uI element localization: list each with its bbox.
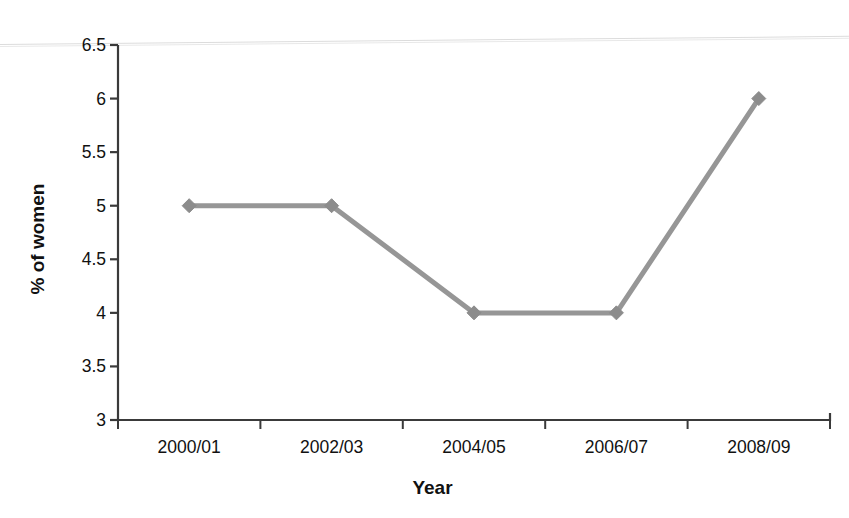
data-point-marker	[182, 199, 196, 213]
x-axis-tick-label: 2006/07	[585, 437, 648, 458]
x-axis-tick-label: 2004/05	[442, 437, 505, 458]
x-axis-tick-label: 2002/03	[300, 437, 363, 458]
y-axis-tick-label: 6	[40, 88, 106, 109]
line-chart-plot	[0, 0, 849, 518]
data-series-line	[189, 99, 759, 313]
y-axis-tick-label: 6.5	[40, 35, 106, 56]
y-axis-ticks	[110, 45, 118, 420]
x-axis-title: Year	[0, 477, 849, 499]
x-axis-tick-label: 2008/09	[727, 437, 790, 458]
y-axis-tick-label: 3.5	[40, 356, 106, 377]
y-axis-tick-label: 5	[40, 195, 106, 216]
x-axis-tick-label: 2000/01	[158, 437, 221, 458]
y-axis-tick-label: 5.5	[40, 142, 106, 163]
y-axis-tick-label: 4	[40, 302, 106, 323]
x-axis-ticks	[118, 420, 830, 429]
y-axis-tick-label: 3	[40, 410, 106, 431]
x-axis-title-text: Year	[412, 477, 452, 499]
y-axis-tick-label: 4.5	[40, 249, 106, 270]
chart-page: % of women 33.544.555.566.5 2000/012002/…	[0, 0, 849, 518]
